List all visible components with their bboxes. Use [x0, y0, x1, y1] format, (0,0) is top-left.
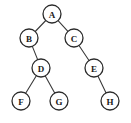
tree-node-a[interactable]: A [43, 5, 61, 23]
tree-node-c[interactable]: C [65, 29, 83, 47]
node-label-e: E [91, 64, 97, 74]
tree-node-h[interactable]: H [101, 92, 119, 110]
tree-edge-e-h [98, 76, 106, 93]
node-label-g: G [55, 97, 62, 107]
tree-node-g[interactable]: G [50, 92, 68, 110]
tree-edge-d-g [45, 76, 54, 93]
tree-node-d[interactable]: D [32, 59, 50, 77]
node-layer: ABCDEFGH [12, 5, 119, 110]
tree-edge-a-c [58, 21, 68, 32]
tree-edge-b-d [32, 46, 37, 59]
tree-edge-d-f [26, 76, 37, 94]
tree-edge-a-b [35, 21, 46, 32]
tree-edge-c-e [79, 45, 89, 60]
node-label-a: A [49, 10, 56, 20]
node-label-b: B [26, 34, 32, 44]
node-label-c: C [71, 34, 78, 44]
node-label-f: F [18, 97, 24, 107]
edge-layer [26, 21, 106, 94]
binary-tree-diagram: ABCDEFGH [0, 0, 131, 123]
node-label-h: H [106, 97, 113, 107]
tree-node-f[interactable]: F [12, 92, 30, 110]
node-label-d: D [38, 64, 45, 74]
tree-node-b[interactable]: B [20, 29, 38, 47]
tree-node-e[interactable]: E [85, 59, 103, 77]
